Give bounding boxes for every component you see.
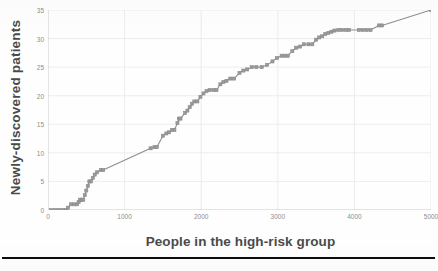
data-point-marker: [82, 198, 85, 201]
data-point-marker: [205, 90, 208, 93]
data-point-marker: [202, 92, 205, 95]
data-point-marker: [361, 28, 364, 31]
data-point-marker: [357, 28, 360, 31]
data-point-marker: [246, 68, 249, 71]
footer-caption: [150, 261, 435, 270]
data-point-marker: [208, 88, 211, 91]
x-axis-title: People in the high-risk group: [48, 234, 433, 249]
data-point-marker: [377, 24, 380, 27]
data-point-marker: [271, 60, 274, 63]
data-point-marker: [196, 100, 199, 103]
data-point-marker: [266, 63, 269, 66]
data-point-marker: [176, 122, 179, 125]
plot-area: 05101520253035 010002000300040005000: [48, 10, 431, 210]
plot-svg: [48, 10, 431, 210]
data-point-marker: [341, 28, 344, 31]
data-point-marker: [327, 31, 330, 34]
x-tick-label: 2000: [194, 213, 208, 220]
data-point-marker: [53, 208, 56, 210]
y-tick-label: 25: [37, 64, 44, 71]
data-point-marker: [179, 117, 182, 120]
series-markers: [50, 10, 431, 210]
data-point-marker: [86, 184, 89, 187]
data-point-marker: [193, 100, 196, 103]
data-point-marker: [72, 203, 75, 206]
data-point-marker: [222, 80, 225, 83]
data-point-marker: [89, 180, 92, 183]
data-point-marker: [61, 208, 64, 210]
data-point-marker: [95, 171, 98, 174]
data-point-marker: [333, 29, 336, 32]
data-point-marker: [91, 176, 94, 179]
y-tick-label: 30: [37, 35, 44, 42]
data-point-marker: [429, 10, 431, 12]
data-point-marker: [215, 88, 218, 91]
data-point-marker: [102, 168, 105, 171]
data-point-marker: [66, 206, 69, 209]
x-tick-label: 5000: [424, 213, 438, 220]
data-point-marker: [155, 146, 158, 149]
data-point-marker: [199, 95, 202, 98]
data-point-marker: [302, 43, 305, 46]
data-point-marker: [188, 106, 191, 109]
data-point-marker: [318, 36, 321, 39]
y-tick-label: 5: [40, 178, 44, 185]
y-tick-label: 20: [37, 92, 44, 99]
x-tick-label: 0: [46, 213, 50, 220]
data-point-marker: [173, 128, 176, 131]
data-point-marker: [255, 66, 258, 69]
data-point-marker: [219, 83, 222, 86]
data-point-marker: [275, 56, 278, 59]
x-tick-label: 4000: [347, 213, 361, 220]
data-point-marker: [260, 66, 263, 69]
data-point-marker: [85, 189, 88, 192]
vertical-gridlines: [125, 10, 431, 210]
data-point-marker: [321, 35, 324, 38]
data-point-marker: [307, 43, 310, 46]
data-point-marker: [149, 147, 152, 150]
data-point-marker: [291, 50, 294, 53]
data-point-marker: [298, 45, 301, 48]
data-point-marker: [337, 28, 340, 31]
data-point-marker: [344, 28, 347, 31]
y-tick-label: 15: [37, 121, 44, 128]
data-point-marker: [365, 28, 368, 31]
data-point-marker: [286, 54, 289, 57]
bottom-divider-rule: [2, 257, 435, 259]
data-point-marker: [242, 69, 245, 72]
data-point-marker: [324, 32, 327, 35]
data-point-marker: [233, 77, 236, 80]
data-point-marker: [238, 71, 241, 74]
horizontal-gridlines: [48, 10, 431, 181]
data-point-marker: [225, 79, 228, 82]
y-axis-title: Newly-discovered patients: [0, 0, 30, 215]
data-point-marker: [186, 109, 189, 112]
y-tick-label: 0: [40, 207, 44, 214]
data-point-marker: [380, 24, 383, 27]
y-tick-label: 10: [37, 149, 44, 156]
data-point-marker: [69, 203, 72, 206]
x-tick-label: 3000: [271, 213, 285, 220]
data-point-marker: [311, 43, 314, 46]
x-tick-label: 1000: [117, 213, 131, 220]
data-point-marker: [280, 54, 283, 57]
data-point-marker: [83, 194, 86, 197]
data-point-marker: [167, 131, 170, 134]
data-point-marker: [295, 46, 298, 49]
data-point-marker: [330, 30, 333, 33]
data-point-marker: [347, 28, 350, 31]
data-point-marker: [369, 28, 372, 31]
data-point-marker: [161, 134, 164, 137]
y-tick-label: 35: [37, 7, 44, 14]
data-point-marker: [315, 38, 318, 41]
series-line: [51, 10, 431, 210]
data-point-marker: [50, 208, 53, 210]
data-point-marker: [229, 77, 232, 80]
data-point-marker: [57, 208, 60, 210]
data-point-marker: [283, 54, 286, 57]
data-point-marker: [250, 66, 253, 69]
data-point-marker: [212, 88, 215, 91]
